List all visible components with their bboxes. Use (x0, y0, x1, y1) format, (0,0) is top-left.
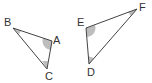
label-e: E (77, 16, 84, 28)
triangles-diagram: B A C E F D (0, 0, 152, 83)
triangle-def (86, 9, 137, 64)
label-d: D (87, 66, 95, 78)
label-a: A (53, 34, 61, 46)
label-b: B (4, 16, 11, 28)
label-c: C (45, 70, 53, 82)
label-f: F (139, 1, 146, 13)
